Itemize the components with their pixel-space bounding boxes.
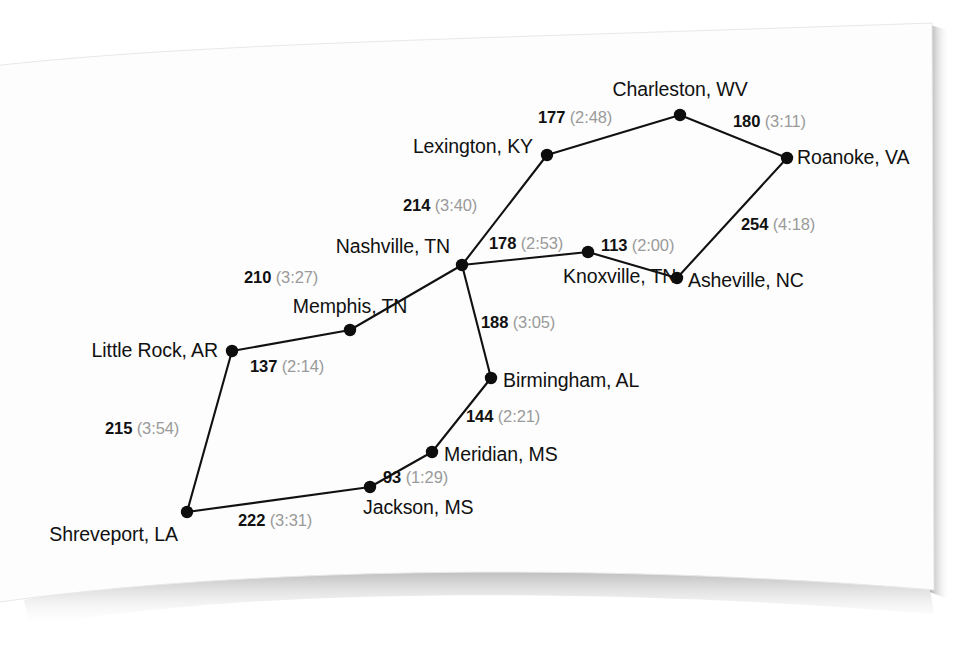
page-scene: Little Rock, ARMemphis, TNNashville, TNL… [0,0,978,654]
paper-sheet [0,0,978,654]
paper-surface [0,23,934,608]
